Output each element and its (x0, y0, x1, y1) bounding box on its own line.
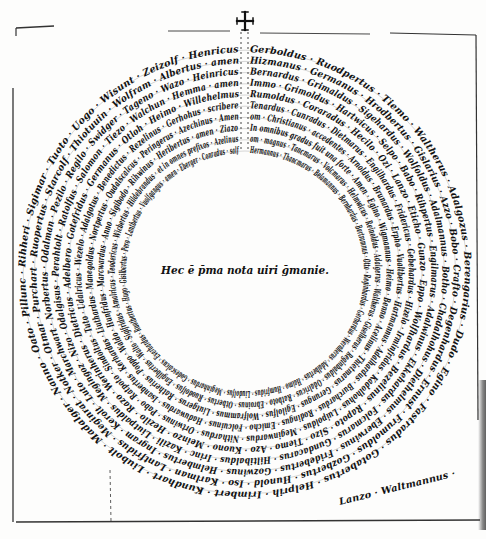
circular-name-diagram: Hermannus · Thancmarus · Belamannus · Be… (0, 0, 486, 539)
center-inscription: Hec ē p̄ma nota uiri ḡmanie. (160, 264, 329, 276)
manuscript-page: Hermannus · Thancmarus · Belamannus · Be… (0, 0, 486, 539)
vertical-dotted-rule (241, 32, 248, 150)
cross-icon (237, 12, 253, 30)
